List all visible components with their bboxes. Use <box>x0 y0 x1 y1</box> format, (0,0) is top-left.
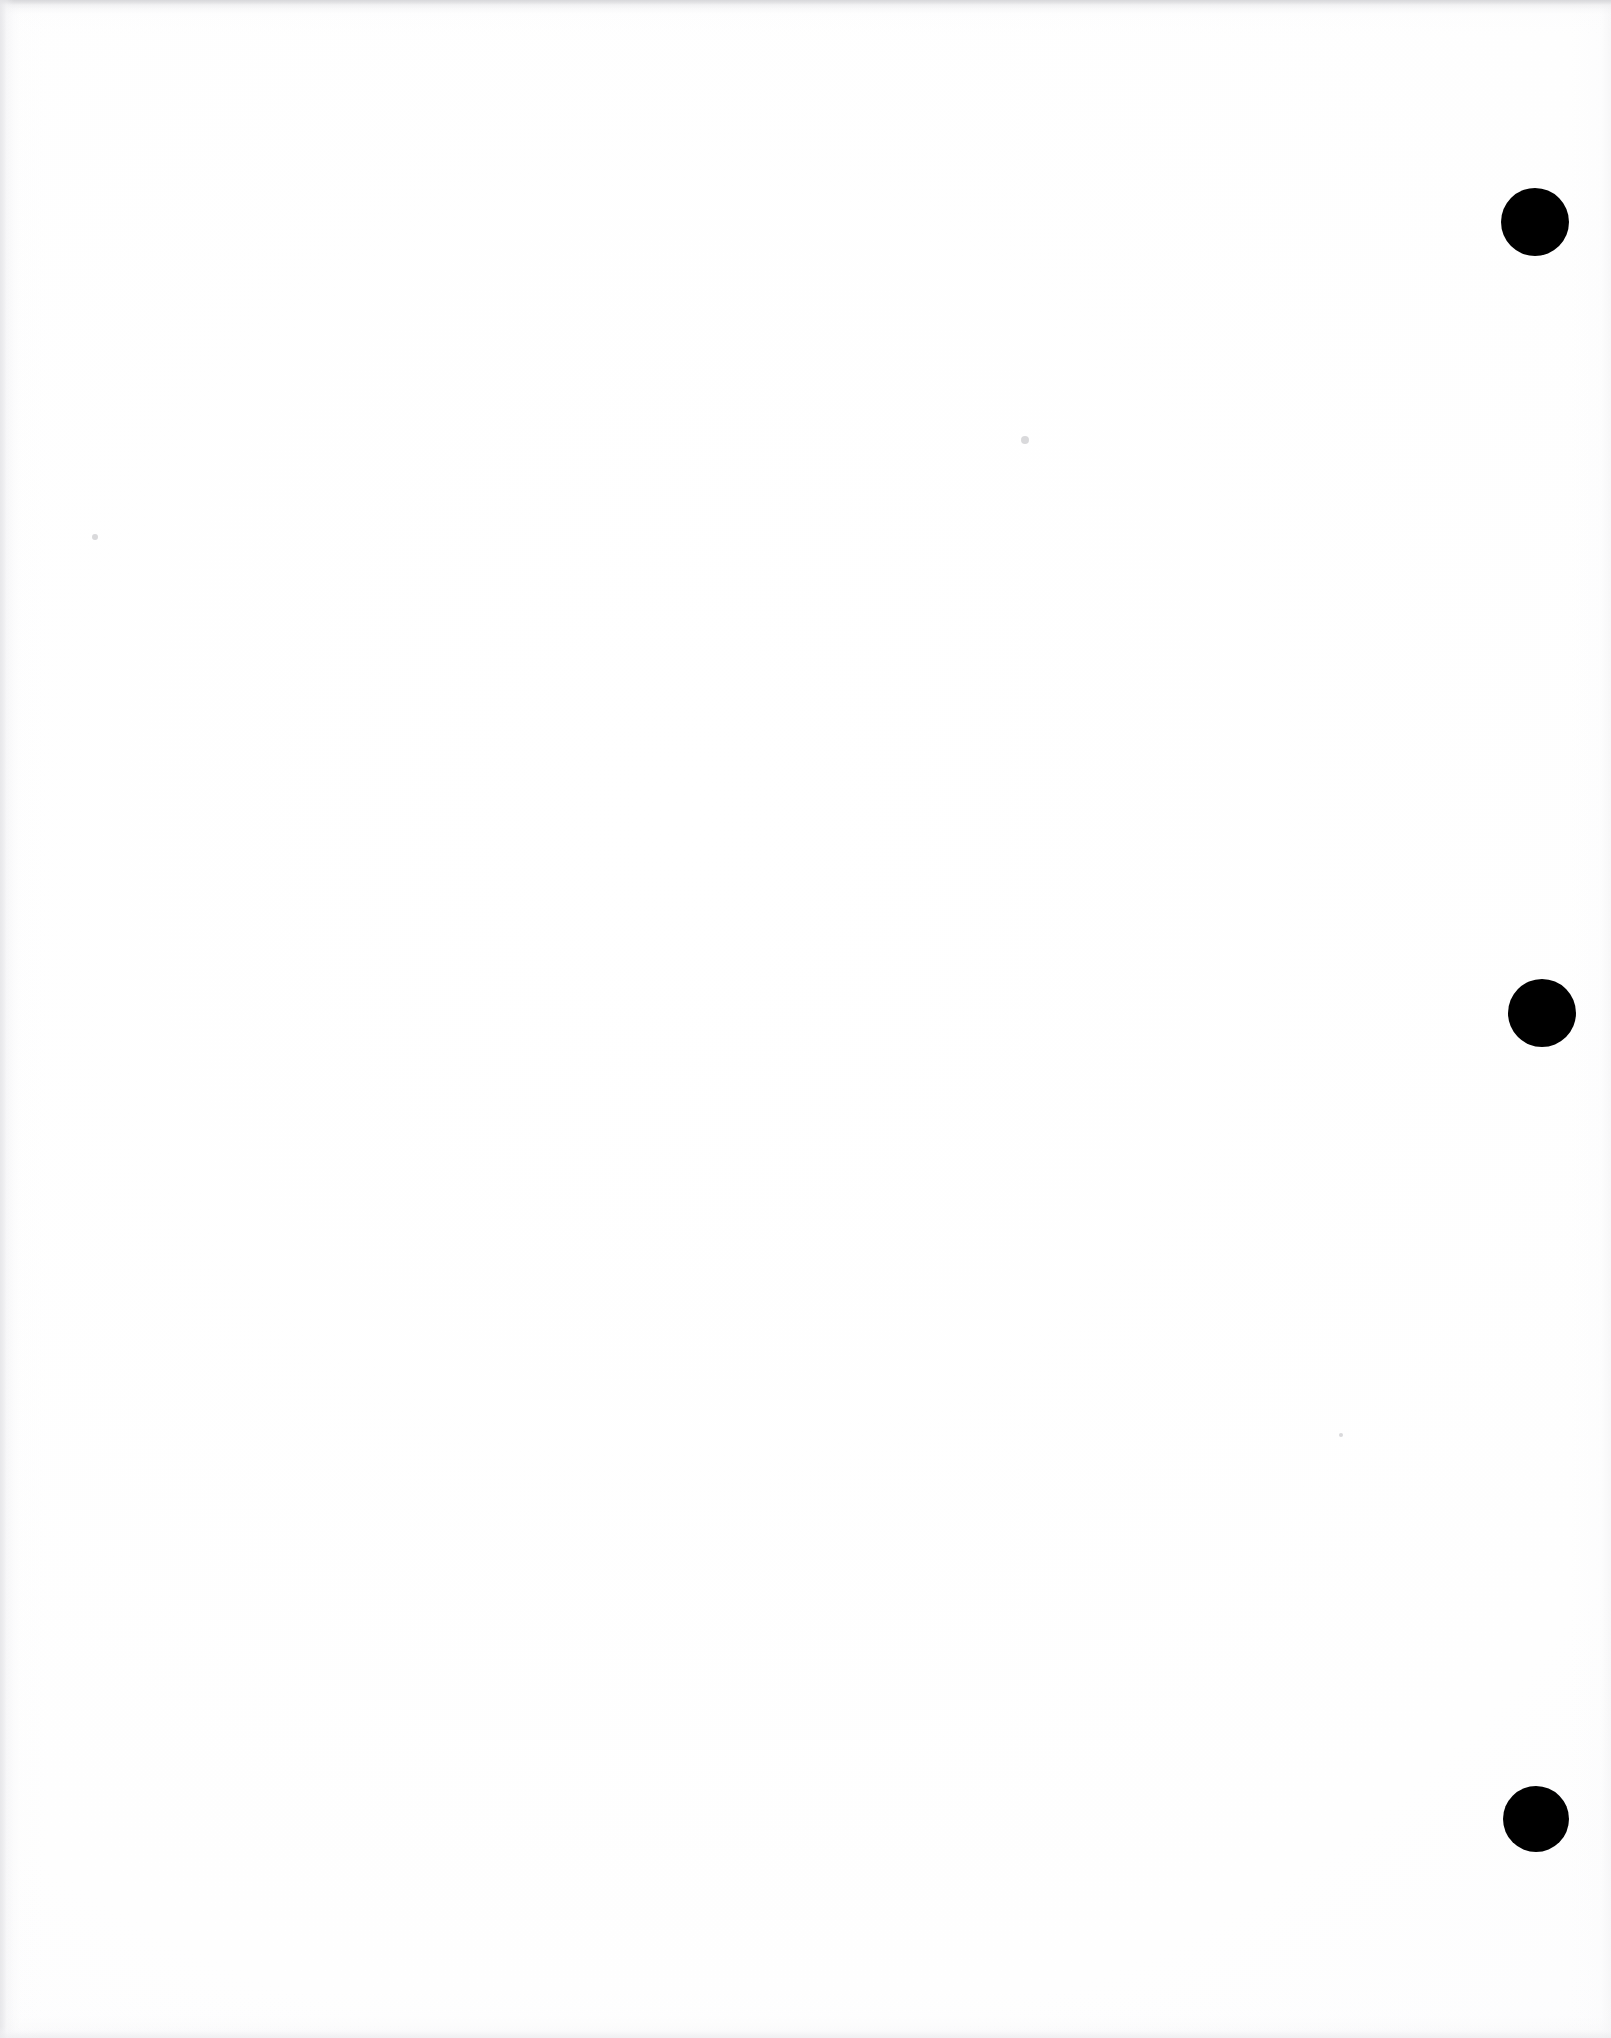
punch-hole-bottom <box>1503 1786 1569 1852</box>
punch-hole-middle <box>1508 979 1576 1047</box>
speck-upper <box>1021 436 1029 444</box>
scan-edge-bottom <box>0 2026 1611 2038</box>
speck-right <box>1339 1433 1343 1437</box>
punch-hole-top <box>1501 188 1569 256</box>
scan-edge-top <box>0 0 1611 9</box>
scan-edge-left <box>0 0 14 2038</box>
paper-background <box>0 0 1611 2038</box>
speck-left <box>92 534 98 540</box>
scanned-page <box>0 0 1611 2038</box>
